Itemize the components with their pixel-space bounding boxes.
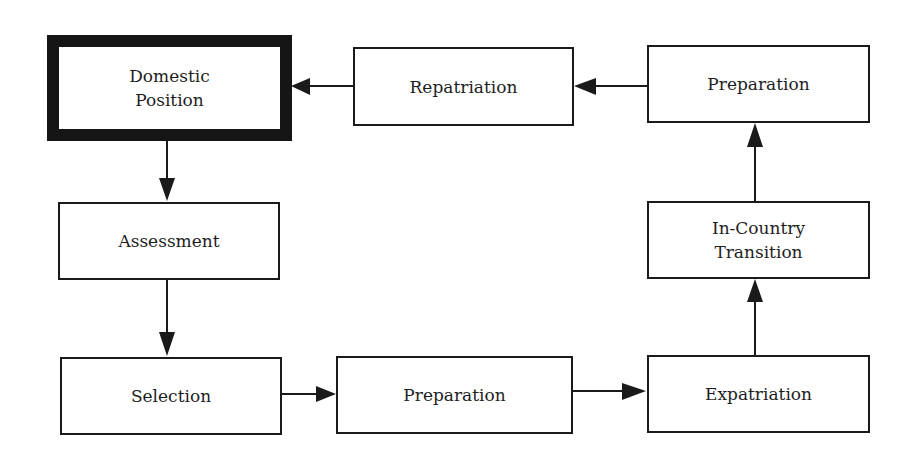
- arrow-domestic-to-assessment: [159, 141, 175, 201]
- node-repatriation: Repatriation: [353, 47, 574, 126]
- arrow-selection-to-preparation: [282, 386, 336, 402]
- arrow-expatriation-to-in-country: [747, 279, 763, 355]
- node-label: Preparation: [707, 72, 809, 96]
- node-preparation-bottom: Preparation: [336, 356, 573, 434]
- node-label: Domestic Position: [129, 64, 210, 112]
- node-expatriation: Expatriation: [647, 355, 870, 433]
- node-assessment: Assessment: [58, 202, 280, 280]
- node-label: Selection: [131, 384, 211, 408]
- node-label: In-Country Transition: [712, 216, 805, 264]
- arrow-in-country-to-preparation: [747, 123, 763, 201]
- node-preparation-top: Preparation: [647, 45, 870, 123]
- arrow-repatriation-to-domestic: [291, 78, 353, 95]
- expatriation-cycle-diagram: Domestic Position Repatriation Preparati…: [0, 0, 924, 466]
- node-label: Preparation: [403, 383, 505, 407]
- arrow-assessment-to-selection: [159, 280, 175, 356]
- node-in-country-transition: In-Country Transition: [647, 201, 870, 279]
- arrow-preparation-to-repatriation: [574, 78, 647, 95]
- node-domestic-position: Domestic Position: [47, 35, 292, 141]
- node-label: Repatriation: [410, 75, 518, 99]
- arrow-preparation-to-expatriation: [573, 383, 646, 400]
- node-label: Expatriation: [705, 382, 812, 406]
- node-selection: Selection: [60, 357, 282, 435]
- node-label: Assessment: [118, 229, 219, 253]
